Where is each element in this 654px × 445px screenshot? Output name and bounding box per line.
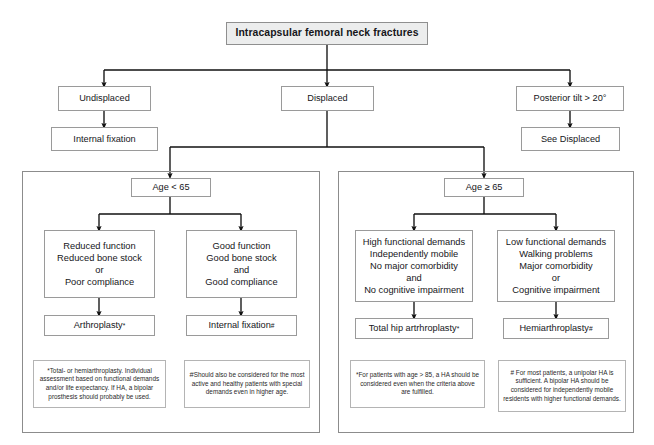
- node-undisplaced-label: Undisplaced: [79, 93, 130, 104]
- criteria-line: or: [552, 272, 560, 284]
- flowchart-root: Intracapsular femoral neck fractures Und…: [0, 0, 654, 445]
- node-age-under-65: Age < 65: [131, 178, 211, 197]
- node-displaced: Displaced: [281, 86, 374, 111]
- note-internal-fixation-hash-text: #Should also be considered for the most …: [189, 371, 305, 397]
- node-posterior-tilt: Posterior tilt > 20°: [516, 86, 624, 111]
- node-internal-fixation-young: Internal fixation#: [186, 315, 297, 336]
- criteria-line: No major comorbidity: [370, 260, 458, 272]
- note-hemiarthroplasty-hash: # For most patients, a unipolar HA is su…: [498, 360, 626, 412]
- criteria-line: Good compliance: [205, 276, 277, 288]
- node-internal-fixation-undisplaced: Internal fixation: [51, 127, 158, 151]
- node-hemiarthroplasty: Hemiarthroplasty#: [503, 318, 609, 339]
- node-internal-fixation-undisplaced-label: Internal fixation: [73, 134, 135, 145]
- node-left-criteria-reduced: Reduced function Reduced bone stock or P…: [44, 230, 155, 298]
- note-arthroplasty-asterisk: *Total- or hemiarthroplasty. Individual …: [33, 360, 166, 408]
- criteria-line: Cognitive impairment: [512, 284, 599, 296]
- note-total-hip-arthroplasty-asterisk-text: *For patients with age > 85, a HA should…: [355, 371, 480, 397]
- node-age-65-and-over-label: Age ≥ 65: [466, 182, 503, 193]
- note-body: Should also be considered for the most a…: [192, 371, 305, 395]
- criteria-line: and: [234, 264, 250, 276]
- criteria-line: No cognitive impairment: [364, 284, 464, 296]
- note-internal-fixation-hash: #Should also be considered for the most …: [184, 360, 310, 408]
- node-total-hip-arthroplasty: Total hip artrhroplasty*: [355, 318, 473, 339]
- node-total-hip-arthroplasty-label: Total hip artrhroplasty: [369, 323, 457, 334]
- node-displaced-label: Displaced: [307, 93, 347, 104]
- criteria-line: Good function: [213, 240, 271, 252]
- criteria-line: and: [406, 272, 422, 284]
- criteria-line: High functional demands: [363, 236, 465, 248]
- node-title-intracapsular-femoral-neck-fractures: Intracapsular femoral neck fractures: [226, 22, 428, 45]
- node-undisplaced: Undisplaced: [58, 86, 151, 111]
- node-right-criteria-high-demand: High functional demands Independently mo…: [355, 230, 473, 302]
- node-arthroplasty-label: Arthroplasty: [74, 320, 123, 331]
- node-see-displaced-label: See Displaced: [541, 134, 600, 145]
- node-age-65-and-over: Age ≥ 65: [444, 178, 524, 197]
- node-title-label: Intracapsular femoral neck fractures: [235, 27, 418, 39]
- criteria-line: Reduced function: [63, 240, 135, 252]
- criteria-line: Poor compliance: [65, 276, 134, 288]
- node-posterior-tilt-label: Posterior tilt > 20°: [534, 93, 607, 104]
- criteria-line: Reduced bone stock: [57, 252, 142, 264]
- node-left-criteria-good: Good function Good bone stock and Good c…: [186, 230, 297, 298]
- criteria-line: Good bone stock: [206, 252, 276, 264]
- node-internal-fixation-young-label: Internal fixation: [209, 320, 271, 331]
- criteria-line: Independently mobile: [370, 248, 458, 260]
- node-arthroplasty: Arthroplasty*: [44, 315, 155, 336]
- note-arthroplasty-asterisk-text: *Total- or hemiarthroplasty. Individual …: [38, 367, 161, 401]
- node-hemiarthroplasty-label: Hemiarthroplasty: [519, 323, 588, 334]
- criteria-line: Low functional demands: [506, 236, 606, 248]
- node-age-under-65-label: Age < 65: [152, 182, 189, 193]
- criteria-line: Major comorbidity: [519, 260, 592, 272]
- criteria-line: Walking problems: [519, 248, 593, 260]
- node-right-criteria-low-demand: Low functional demands Walking problems …: [497, 230, 615, 302]
- note-total-hip-arthroplasty-asterisk: *For patients with age > 85, a HA should…: [350, 360, 485, 408]
- node-see-displaced: See Displaced: [521, 127, 620, 151]
- note-hemiarthroplasty-hash-text: # For most patients, a unipolar HA is su…: [503, 369, 621, 403]
- criteria-line: or: [95, 264, 103, 276]
